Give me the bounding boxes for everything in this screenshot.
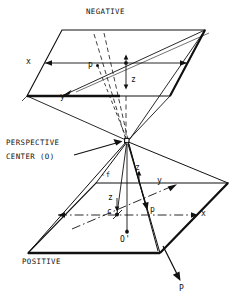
positive-plane-label: POSITIVE	[22, 258, 61, 265]
positive-y-axis-label: y	[157, 177, 162, 185]
positive-x-arrowhead-left	[58, 212, 65, 217]
ray-to-object-point	[129, 144, 158, 251]
upper-image-point-label: p	[88, 61, 93, 69]
positive-plane-right-edge	[160, 183, 228, 253]
upper-x-axis-label: x	[26, 58, 31, 66]
positive-x-axis-label: x	[201, 210, 206, 218]
object-point-callout-line	[163, 246, 178, 276]
negative-plane-label: NEGATIVE	[86, 8, 125, 15]
negative-plane-edge-extension	[22, 96, 27, 101]
upper-z-axis-label: z	[131, 76, 136, 84]
positive-principal-point-label: c	[107, 208, 112, 216]
perspective-center-callout-line	[74, 143, 118, 156]
focal-length-line	[117, 144, 127, 214]
ground-axis-dot	[125, 229, 128, 232]
negative-z-arrowhead-down	[124, 85, 129, 90]
perspective-center-callout-arrowhead	[113, 139, 122, 146]
positive-image-point-label: p	[150, 206, 155, 214]
negative-z-up-arrowhead	[124, 55, 129, 60]
object-point-callout-arrowhead	[173, 272, 181, 282]
negative-plane-diagonal-secondary	[76, 33, 209, 92]
positive-z-axis-label: z	[108, 194, 113, 202]
perspective-center-label-line2: CENTER (O)	[6, 153, 55, 160]
positive-y-arrowhead	[168, 184, 177, 191]
ground-origin-label: O'	[120, 236, 130, 244]
positive-z-tilde-label: z	[135, 164, 140, 172]
perspective-center-label-line1: PERSPECTIVE	[6, 139, 59, 146]
upper-y-axis-label: y	[60, 93, 65, 101]
object-point-label: P	[179, 285, 184, 293]
focal-length-label: -f	[101, 171, 110, 178]
negative-projection-rays-dashed	[94, 33, 128, 140]
negative-principal-point	[124, 61, 128, 65]
